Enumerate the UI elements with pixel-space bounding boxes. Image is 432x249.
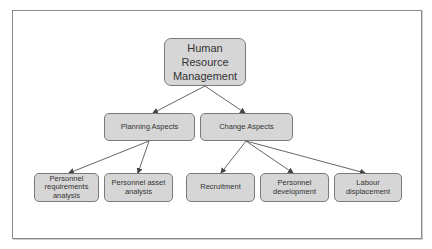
node-label: Change Aspects [219, 123, 274, 132]
node-recruitment: Recruitment [186, 173, 255, 202]
node-change-aspects: Change Aspects [200, 113, 293, 141]
node-label-line: Management [173, 69, 237, 83]
node-human-resource-management: Human Resource Management [164, 38, 246, 86]
node-label-line: analysis [112, 188, 166, 197]
node-labour-displacement: Labour displacement [334, 173, 402, 202]
edge-hrm-change [205, 86, 245, 113]
edge-change-pdev [246, 141, 293, 173]
node-personnel-development: Personnel development [260, 173, 329, 202]
edge-hrm-planning [153, 86, 205, 113]
node-label-line: Resource [173, 55, 237, 69]
edge-planning-paa [138, 141, 149, 173]
node-label: Planning Aspects [121, 123, 179, 132]
node-personnel-asset-analysis: Personnel asset analysis [104, 173, 173, 202]
node-label-line: Human [173, 41, 237, 55]
node-label-line: displacement [346, 188, 390, 197]
edge-change-ldis [246, 141, 365, 173]
node-personnel-requirements-analysis: Personnel requirements analysis [34, 173, 99, 202]
node-label: Recruitment [200, 183, 240, 192]
edge-planning-pra [69, 141, 149, 173]
node-label-line: development [273, 188, 316, 197]
node-planning-aspects: Planning Aspects [104, 113, 195, 141]
node-label-line: analysis [45, 192, 89, 201]
edge-change-rec [221, 141, 246, 173]
